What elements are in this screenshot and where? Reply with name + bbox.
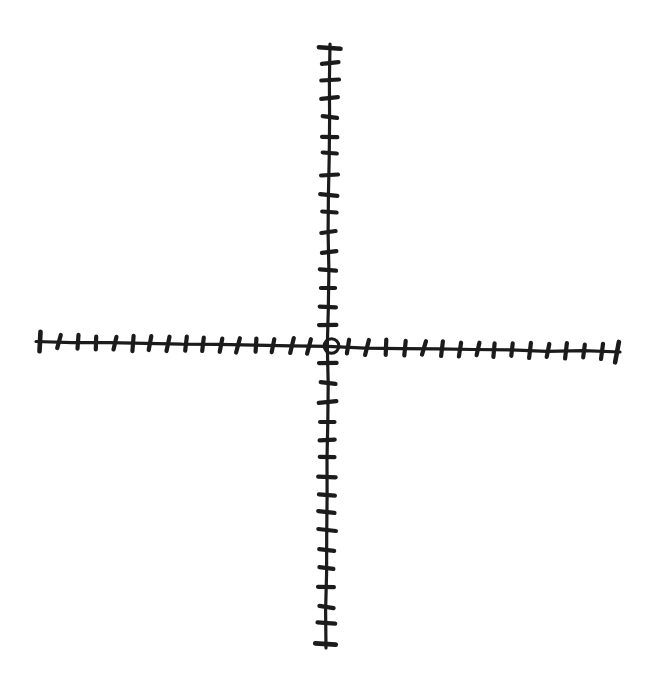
y-axis-tick [318,477,336,478]
y-axis-tick [323,153,337,154]
x-axis-tick [220,339,223,352]
x-axis-tick [422,341,426,354]
x-axis-tick [202,338,204,352]
x-axis-tick [583,345,585,358]
y-axis-tick [321,231,335,233]
y-axis-tick [321,80,339,81]
x-axis-tick [149,336,152,350]
axes-drawing [0,0,660,675]
x-axis-tick [307,339,311,353]
y-axis-tick [318,529,336,531]
x-axis-tick [114,337,117,350]
y-axis-tick [318,622,336,623]
x-axis-tick [347,340,349,354]
y-axis-tick [318,511,334,513]
x-axis-tick [290,338,294,353]
x-axis-tick [185,337,187,351]
y-axis-tick [322,251,337,253]
x-axis-tick [132,336,133,351]
x-axis-tick [565,343,567,358]
y-axis-tick [322,62,339,64]
x-axis-tick [272,339,275,352]
y-axis-end-tick [319,47,341,49]
x-axis-tick [493,343,494,357]
x-axis-tick [57,335,61,348]
x-axis-tick [547,344,550,357]
y-axis-tick [319,401,337,403]
y-axis-tick [320,269,336,270]
y-axis-end-tick [315,643,336,644]
y-axis-tick [319,549,334,551]
x-axis-tick [511,343,512,355]
scanned-figure-page [0,0,660,675]
y-axis-tick [323,116,337,118]
x-axis-tick [601,344,603,359]
x-axis-tick [441,341,443,356]
y-axis-tick [320,440,335,441]
x-axis-tick [477,343,480,355]
x-axis-tick [256,339,257,352]
y-axis-tick [320,194,337,196]
x-axis-tick [236,338,240,352]
y-axis-tick [319,567,333,569]
x-axis-tick [386,340,387,355]
x-axis-end-tick [40,332,41,352]
y-axis-tick [322,212,336,213]
x-axis-end-tick [615,342,619,362]
x-axis-tick [459,343,461,357]
y-axis-tick [321,382,336,384]
y-axis-tick [319,606,333,608]
x-axis-tick [78,335,79,349]
x-axis-tick [404,341,405,356]
y-axis-tick [320,307,336,308]
y-axis-tick [321,175,338,176]
x-axis-tick [167,337,170,351]
x-axis-tick [365,340,369,355]
x-axis-tick [529,343,531,358]
y-axis-tick [321,97,338,99]
y-axis-tick [319,494,335,495]
